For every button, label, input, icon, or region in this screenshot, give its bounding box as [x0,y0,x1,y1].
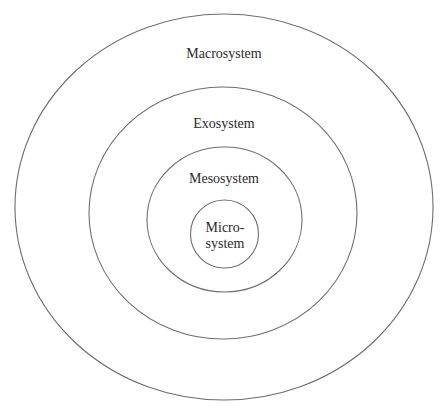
exosystem-label: Exosystem [193,116,255,131]
microsystem-label-line1: Micro- [206,220,245,235]
mesosystem-label: Mesosystem [189,171,259,186]
macrosystem-label: Macrosystem [186,46,262,61]
macrosystem-ellipse [15,14,433,400]
ecological-systems-diagram: Macrosystem Exosystem Mesosystem Micro- … [0,0,443,407]
microsystem-label-line2: system [206,236,245,251]
